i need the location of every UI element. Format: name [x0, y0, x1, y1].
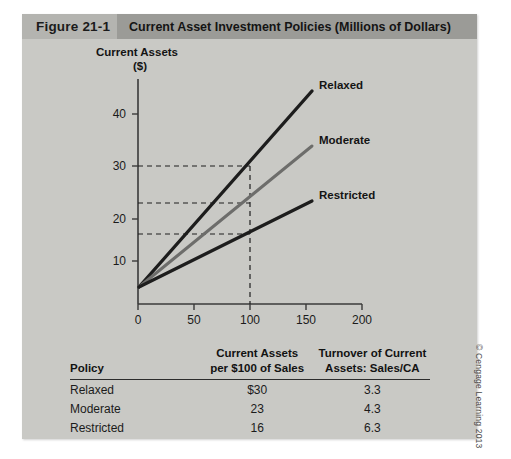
cell-assets-relaxed: $30: [200, 380, 315, 400]
cell-policy-restricted: Restricted: [70, 418, 200, 437]
y-tick-label-10: 10: [113, 254, 127, 268]
figure-panel: Figure 21-1 Current Asset Investment Pol…: [22, 14, 477, 439]
y-axis-title-line2: ($): [133, 60, 147, 72]
chart-plot-area: Current Assets ($) 40 30 20 10 0 50 100 …: [22, 39, 477, 329]
series-label-moderate: Moderate: [319, 134, 370, 146]
series-line-restricted: [139, 201, 312, 287]
column-header-turnover: Turnover of Current Assets: Sales/CA: [315, 346, 430, 380]
figure-title-cell: Current Asset Investment Policies (Milli…: [117, 14, 477, 39]
figure-number-label: Figure 21-1: [36, 19, 110, 34]
series-line-relaxed: [139, 91, 312, 287]
cell-assets-restricted: 16: [200, 418, 315, 437]
copyright-note: © Cengage Learning 2013: [474, 344, 484, 448]
column-header-turnover-line1: Turnover of Current: [315, 346, 430, 361]
cell-turnover-relaxed: 3.3: [315, 380, 430, 400]
column-header-current-assets-line1: Current Assets: [200, 346, 315, 361]
figure-title-label: Current Asset Investment Policies (Milli…: [129, 20, 451, 34]
line-chart-svg: Current Assets ($) 40 30 20 10 0 50 100 …: [22, 39, 477, 329]
cell-turnover-moderate: 4.3: [315, 399, 430, 418]
table-row: Relaxed $30 3.3: [70, 380, 430, 400]
x-tick-label-50: 50: [187, 313, 201, 327]
figure-header-bar: Figure 21-1 Current Asset Investment Pol…: [22, 14, 477, 39]
series-line-moderate: [139, 146, 312, 287]
y-tick-label-20: 20: [113, 212, 127, 226]
y-axis-title-line1: Current Assets: [96, 46, 178, 58]
x-tick-label-200: 200: [352, 313, 372, 327]
column-header-turnover-line2: Assets: Sales/CA: [315, 361, 430, 376]
policy-table: Policy Current Assets per $100 of Sales …: [70, 346, 430, 437]
column-header-current-assets: Current Assets per $100 of Sales: [200, 346, 315, 380]
y-tick-label-30: 30: [113, 159, 127, 173]
column-header-policy: Policy: [70, 346, 200, 380]
cell-policy-moderate: Moderate: [70, 399, 200, 418]
table-row: Moderate 23 4.3: [70, 399, 430, 418]
cell-turnover-restricted: 6.3: [315, 418, 430, 437]
policy-table-body: Relaxed $30 3.3 Moderate 23 4.3 Restrict…: [70, 380, 430, 438]
x-tick-label-0: 0: [135, 313, 142, 327]
column-header-current-assets-line2: per $100 of Sales: [200, 361, 315, 376]
cell-policy-relaxed: Relaxed: [70, 380, 200, 400]
table-row: Restricted 16 6.3: [70, 418, 430, 437]
cell-assets-moderate: 23: [200, 399, 315, 418]
x-tick-label-100: 100: [240, 313, 260, 327]
series-label-relaxed: Relaxed: [319, 79, 363, 91]
policy-table-header-row: Policy Current Assets per $100 of Sales …: [70, 346, 430, 380]
figure-number-cell: Figure 21-1: [22, 14, 117, 39]
x-tick-label-150: 150: [296, 313, 316, 327]
policy-table-head: Policy Current Assets per $100 of Sales …: [70, 346, 430, 380]
policy-table-container: Policy Current Assets per $100 of Sales …: [70, 346, 430, 437]
series-label-restricted: Restricted: [319, 189, 375, 201]
y-tick-label-40: 40: [113, 107, 127, 121]
